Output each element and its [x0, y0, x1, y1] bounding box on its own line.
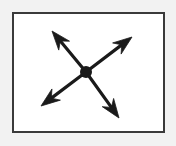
arrows-diagram: four-way radiating arrows diagram — [0, 0, 176, 146]
center-dot — [80, 66, 92, 78]
figure-canvas: four-way radiating arrows diagram — [0, 0, 176, 146]
